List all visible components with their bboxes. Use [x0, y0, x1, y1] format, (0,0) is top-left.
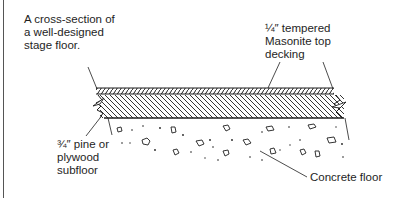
masonite-decking-layer — [96, 88, 334, 94]
floor-cross-section-diagram — [0, 0, 399, 198]
subfloor-layer — [93, 95, 346, 118]
concrete-aggregate — [117, 124, 336, 157]
concrete-specks — [121, 125, 344, 161]
